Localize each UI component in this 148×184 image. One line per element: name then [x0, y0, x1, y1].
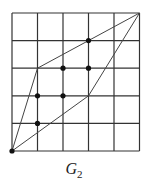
lattice-point [86, 66, 91, 71]
caption-subscript: 2 [77, 168, 83, 180]
lattice-point [35, 121, 40, 126]
lattice-point [86, 38, 91, 43]
parallelogram-polygon [12, 13, 140, 151]
lattice-point [60, 93, 65, 98]
caption-label: G [65, 160, 77, 177]
lattice-point [35, 93, 40, 98]
grid-lines [12, 13, 140, 151]
lattice-point [9, 148, 14, 153]
lattice-point [60, 66, 65, 71]
lattice-diagram [0, 0, 148, 184]
figure-caption: G2 [0, 160, 148, 180]
